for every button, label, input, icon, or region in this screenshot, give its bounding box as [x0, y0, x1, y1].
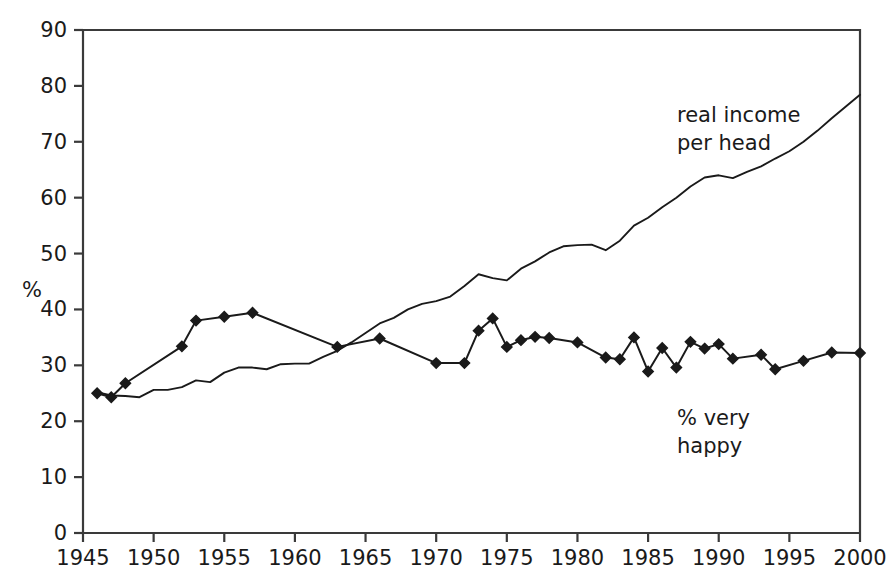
y-axis-title: %	[22, 278, 42, 302]
x-tick-label: 1955	[198, 546, 251, 570]
x-tick-label: 2000	[833, 546, 886, 570]
y-tick-label: 60	[40, 186, 67, 210]
y-tick-label: 90	[40, 18, 67, 42]
line-chart: 0102030405060708090 19451950195519601965…	[0, 0, 889, 586]
y-tick-label: 0	[54, 521, 67, 545]
y-tick-label: 40	[40, 297, 67, 321]
y-tick-label: 20	[40, 409, 67, 433]
income-label-line1: real income	[677, 103, 800, 127]
x-tick-label: 1975	[480, 546, 533, 570]
y-tick-label: 80	[40, 74, 67, 98]
y-tick-label: 10	[40, 465, 67, 489]
chart-background	[0, 0, 889, 586]
happy-label-line1: % very	[677, 406, 750, 430]
x-tick-label: 1985	[621, 546, 674, 570]
x-tick-label: 1970	[409, 546, 462, 570]
y-tick-label: 30	[40, 353, 67, 377]
x-tick-label: 1965	[339, 546, 392, 570]
x-tick-label: 1960	[268, 546, 321, 570]
chart-container: 0102030405060708090 19451950195519601965…	[0, 0, 889, 586]
x-tick-label: 1995	[763, 546, 816, 570]
x-tick-label: 1950	[127, 546, 180, 570]
happy-label-line2: happy	[677, 434, 742, 458]
y-tick-label: 50	[40, 242, 67, 266]
x-tick-label: 1990	[692, 546, 745, 570]
x-tick-label: 1945	[56, 546, 109, 570]
income-label-line2: per head	[677, 131, 771, 155]
x-tick-label: 1980	[551, 546, 604, 570]
y-tick-label: 70	[40, 130, 67, 154]
